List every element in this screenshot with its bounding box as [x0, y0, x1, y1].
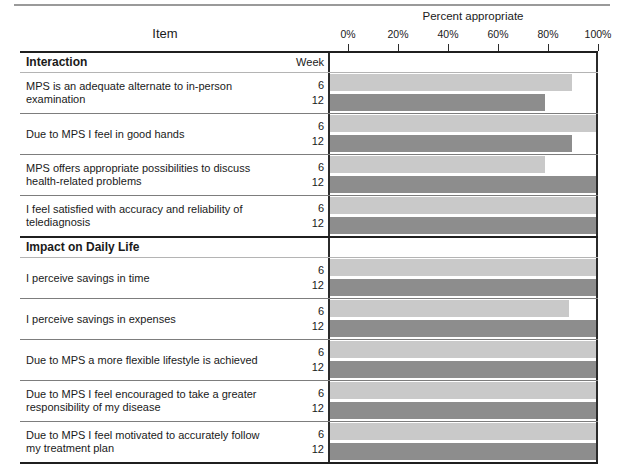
bar-week-6 — [330, 423, 596, 440]
x-axis-ticks — [348, 44, 598, 51]
table-bottom-border — [20, 462, 598, 464]
bar-week-12 — [330, 402, 596, 419]
section-heading: Interaction — [20, 53, 283, 72]
week-labels: 612 — [283, 73, 328, 113]
bar-track — [330, 93, 596, 113]
week-12-label: 12 — [312, 320, 324, 333]
bar-track — [330, 73, 596, 93]
bar-track — [330, 319, 596, 339]
section-header-row: InteractionWeek — [20, 53, 598, 72]
table-row: I perceive savings in expenses612 — [20, 299, 598, 339]
section-heading: Impact on Daily Life — [20, 238, 283, 257]
bar-plot-area — [328, 422, 598, 462]
item-label: Due to MPS a more flexible lifestyle is … — [20, 340, 283, 380]
bar-week-6 — [330, 300, 569, 317]
bar-week-12 — [330, 94, 545, 111]
week-labels: 612 — [283, 381, 328, 421]
x-axis-label-40: 40% — [437, 28, 458, 40]
top-divider — [14, 4, 610, 6]
table-row: Due to MPS I feel in good hands612 — [20, 114, 598, 154]
bar-track — [330, 422, 596, 442]
week-6-label: 6 — [318, 161, 324, 174]
bar-week-6 — [330, 156, 545, 173]
table-row: MPS offers appropriate possibilities to … — [20, 155, 598, 195]
week-12-label: 12 — [312, 94, 324, 107]
week-labels: 612 — [283, 422, 328, 462]
bar-week-12 — [330, 361, 596, 378]
bars-container — [330, 114, 596, 154]
week-6-label: 6 — [318, 202, 324, 215]
week-column-header — [283, 238, 328, 257]
week-labels: 612 — [283, 340, 328, 380]
week-12-label: 12 — [312, 217, 324, 230]
week-6-label: 6 — [318, 387, 324, 400]
week-12-label: 12 — [312, 176, 324, 189]
bar-plot-area — [328, 114, 598, 154]
table-row: Due to MPS I feel motivated to accuratel… — [20, 422, 598, 462]
bar-plot-area — [328, 381, 598, 421]
bars-container — [330, 155, 596, 195]
bar-plot-area — [328, 155, 598, 195]
section-header-plot-area — [328, 238, 598, 257]
bars-container — [330, 299, 596, 339]
bars-container — [330, 422, 596, 462]
x-axis-label-80: 80% — [537, 28, 558, 40]
week-6-label: 6 — [318, 428, 324, 441]
bar-week-12 — [330, 135, 572, 152]
bar-week-12 — [330, 176, 596, 193]
item-label: I perceive savings in expenses — [20, 299, 283, 339]
week-labels: 612 — [283, 155, 328, 195]
x-axis-tick-100 — [598, 44, 599, 51]
bar-plot-area — [328, 340, 598, 380]
bar-track — [330, 401, 596, 421]
week-6-label: 6 — [318, 346, 324, 359]
x-axis-tick-60 — [498, 44, 499, 51]
week-column-header: Week — [283, 53, 328, 72]
table-row: Due to MPS I feel encouraged to take a g… — [20, 381, 598, 421]
table-row: MPS is an adequate alternate to in-perso… — [20, 73, 598, 113]
bar-track — [330, 360, 596, 380]
bar-plot-area — [328, 299, 598, 339]
bar-plot-area — [328, 196, 598, 236]
item-column-header: Item — [20, 26, 310, 41]
bars-container — [330, 258, 596, 298]
x-axis-labels: 0%20%40%60%80%100% — [348, 28, 598, 42]
item-label: I feel satisfied with accuracy and relia… — [20, 196, 283, 236]
bar-track — [330, 278, 596, 298]
bars-container — [330, 196, 596, 236]
x-axis-tick-20 — [398, 44, 399, 51]
bar-track — [330, 381, 596, 401]
item-label: MPS offers appropriate possibilities to … — [20, 155, 283, 195]
chart-title: Percent appropriate — [348, 10, 598, 22]
week-12-label: 12 — [312, 361, 324, 374]
week-6-label: 6 — [318, 79, 324, 92]
item-label: Due to MPS I feel encouraged to take a g… — [20, 381, 283, 421]
item-label: MPS is an adequate alternate to in-perso… — [20, 73, 283, 113]
bar-track — [330, 299, 596, 319]
bar-track — [330, 175, 596, 195]
item-label: I perceive savings in time — [20, 258, 283, 298]
table-row: Due to MPS a more flexible lifestyle is … — [20, 340, 598, 380]
section-header-row: Impact on Daily Life — [20, 238, 598, 257]
item-label: Due to MPS I feel in good hands — [20, 114, 283, 154]
week-12-label: 12 — [312, 443, 324, 456]
x-axis-label-100: 100% — [585, 28, 612, 40]
x-axis-tick-80 — [548, 44, 549, 51]
bar-plot-area — [328, 258, 598, 298]
week-6-label: 6 — [318, 264, 324, 277]
x-axis-tick-0 — [348, 44, 349, 51]
bar-track — [330, 216, 596, 236]
figure-canvas: Percent appropriate Item 0%20%40%60%80%1… — [0, 0, 624, 465]
bar-week-6 — [330, 74, 572, 91]
bar-track — [330, 340, 596, 360]
bar-week-6 — [330, 382, 596, 399]
bar-week-6 — [330, 341, 596, 358]
bars-container — [330, 340, 596, 380]
x-axis-label-0: 0% — [340, 28, 355, 40]
week-labels: 612 — [283, 114, 328, 154]
data-table: InteractionWeekMPS is an adequate altern… — [20, 51, 598, 464]
bar-week-12 — [330, 443, 596, 460]
week-labels: 612 — [283, 299, 328, 339]
bar-track — [330, 134, 596, 154]
bar-track — [330, 114, 596, 134]
